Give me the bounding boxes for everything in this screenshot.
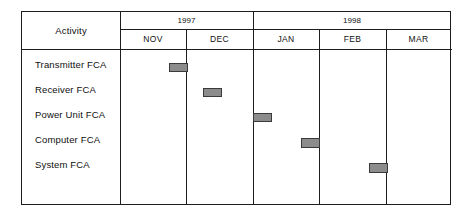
- header-month-feb: FEB: [319, 29, 386, 49]
- header-year-1997-label: 1997: [177, 16, 195, 25]
- column-rule-nov-dec: [186, 29, 187, 205]
- row-label-receiver-fca: Receiver FCA: [35, 82, 96, 96]
- header-month-dec: DEC: [186, 29, 253, 49]
- gantt-bar-computer-fca[interactable]: [301, 138, 320, 148]
- header-month-nov: NOV: [120, 29, 186, 49]
- header-month-jan: JAN: [253, 29, 319, 49]
- header-year-1998-label: 1998: [343, 16, 361, 25]
- header-activity: Activity: [22, 12, 120, 49]
- row-label-transmitter-fca: Transmitter FCA: [35, 57, 107, 71]
- row-label-text: System FCA: [35, 159, 90, 170]
- header-month-mar: MAR: [386, 29, 451, 49]
- row-label-text: Receiver FCA: [35, 84, 96, 95]
- header-month-nov-label: NOV: [143, 34, 162, 44]
- gantt-bar-system-fca[interactable]: [369, 163, 388, 173]
- row-label-text: Computer FCA: [35, 134, 100, 145]
- header-bottom-divider: [22, 49, 452, 50]
- header-year-1997: 1997: [120, 12, 253, 29]
- column-rule-jan-feb: [319, 29, 320, 205]
- row-label-system-fca: System FCA: [35, 157, 90, 171]
- header-month-dec-label: DEC: [210, 34, 229, 44]
- gantt-bar-receiver-fca[interactable]: [203, 88, 222, 97]
- header-activity-label: Activity: [55, 25, 87, 36]
- column-rule-feb-mar: [386, 29, 387, 205]
- header-month-feb-label: FEB: [344, 34, 361, 44]
- row-label-text: Power Unit FCA: [35, 109, 105, 120]
- row-label-text: Transmitter FCA: [35, 59, 107, 70]
- row-label-power-unit-fca: Power Unit FCA: [35, 107, 105, 121]
- header-month-jan-label: JAN: [278, 34, 295, 44]
- gantt-bar-transmitter-fca[interactable]: [169, 63, 188, 72]
- gantt-chart: Activity 1997 1998 NOV DEC JAN FEB MAR T…: [21, 11, 451, 205]
- gantt-bar-power-unit-fca[interactable]: [253, 113, 272, 122]
- header-month-mar-label: MAR: [409, 34, 429, 44]
- header-year-1998: 1998: [253, 12, 451, 29]
- row-label-computer-fca: Computer FCA: [35, 132, 100, 146]
